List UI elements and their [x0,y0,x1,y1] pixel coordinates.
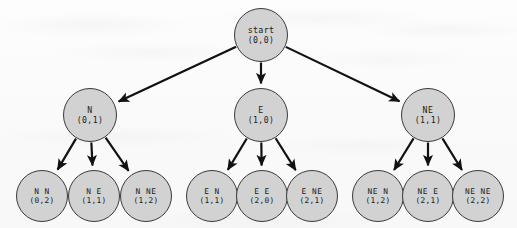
node-label: E [258,105,264,115]
tree-node-ne-e[interactable]: NE E(2,1) [402,170,454,222]
tree-edge-e-to-e-ne [276,138,296,170]
node-label: N [87,105,93,115]
tree-node-e[interactable]: E(1,0) [234,88,288,142]
node-label: NE NE [465,187,491,197]
node-label: E E [254,187,270,197]
tree-node-e-ne[interactable]: E NE(2,1) [286,170,338,222]
tree-diagram: start(0,0)N(0,1)E(1,0)NE(1,1)N N(0,2)N E… [0,0,517,228]
node-coordinate: (1,0) [248,115,275,125]
node-label: E N [204,187,220,197]
tree-edge-n-to-n-e [91,142,92,165]
node-coordinate: (1,2) [134,196,159,206]
tree-edge-ne-to-ne-n [394,138,413,170]
node-label: N NE [136,187,157,197]
node-label: N N [34,187,50,197]
tree-edge-n-to-n-n [58,139,76,170]
node-coordinate: (1,1) [415,115,442,125]
tree-node-start[interactable]: start(0,0) [234,8,288,62]
tree-node-n-e[interactable]: N E(1,1) [68,170,120,222]
node-label: NE [422,105,433,115]
node-coordinate: (2,1) [300,196,325,206]
tree-node-ne[interactable]: NE(1,1) [401,88,455,142]
node-coordinate: (2,0) [250,196,275,206]
node-coordinate: (0,0) [248,35,275,45]
tree-edge-start-to-ne [286,47,400,101]
node-label: NE N [368,187,389,197]
tree-node-n-n[interactable]: N N(0,2) [16,170,68,222]
tree-edge-ne-to-ne-ne [442,138,461,170]
node-label: start [248,25,275,35]
node-coordinate: (1,2) [366,196,391,206]
tree-edge-e-to-e-n [228,139,247,170]
node-label: N E [86,187,102,197]
node-coordinate: (1,1) [200,196,225,206]
node-coordinate: (2,2) [466,196,491,206]
node-coordinate: (0,1) [77,115,104,125]
tree-node-n-ne[interactable]: N NE(1,2) [120,170,172,222]
tree-edge-start-to-n [119,47,236,102]
tree-edge-n-to-n-ne [106,138,129,171]
tree-node-ne-n[interactable]: NE N(1,2) [352,170,404,222]
tree-node-e-e[interactable]: E E(2,0) [236,170,288,222]
tree-node-e-n[interactable]: E N(1,1) [186,170,238,222]
node-coordinate: (2,1) [416,196,441,206]
node-label: NE E [418,187,439,197]
tree-node-n[interactable]: N(0,1) [63,88,117,142]
tree-node-ne-ne[interactable]: NE NE(2,2) [452,170,504,222]
node-coordinate: (1,1) [82,196,107,206]
node-coordinate: (0,2) [30,196,55,206]
node-label: E NE [302,187,323,197]
